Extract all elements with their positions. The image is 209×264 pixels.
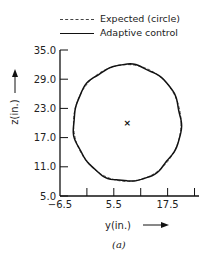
x-tick-label: 17.5 [156, 199, 178, 210]
y-tick-label: 23.0 [34, 103, 56, 114]
x-tick-label: −6.5 [48, 199, 72, 210]
y-axis-arrow-icon [12, 69, 18, 93]
x-axis-arrow-icon [143, 222, 169, 228]
series: × [73, 64, 181, 182]
y-axis-label: z(in.) [9, 99, 20, 124]
y-tick-label: 29.0 [34, 74, 56, 85]
y-tick-label: 11.0 [34, 161, 56, 172]
plot-area: 35.029.023.017.011.05.0−6.55.517.5 × z(i… [0, 0, 209, 264]
center-marker-icon: × [123, 118, 131, 128]
y-tick-label: 35.0 [34, 45, 56, 56]
y-tick-label: 17.0 [34, 132, 56, 143]
figure-caption: (a) [112, 239, 126, 250]
x-tick-label: 5.5 [106, 199, 122, 210]
ticks: 35.029.023.017.011.05.0−6.55.517.5 [34, 45, 195, 211]
x-axis-label: y(in.) [105, 220, 131, 231]
